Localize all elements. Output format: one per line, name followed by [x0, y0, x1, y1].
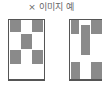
- figure-title: × 이미지 예: [0, 0, 102, 14]
- cell-top-right: [91, 20, 102, 34]
- cell-lower-left: [10, 50, 21, 64]
- cell-bottom-left: [71, 62, 80, 79]
- left-pattern-box: [8, 19, 45, 81]
- cell-bottom-right: [91, 62, 102, 79]
- cell-middle-center: [21, 34, 32, 49]
- right-pattern-box: [69, 19, 102, 81]
- cell-top-left: [10, 20, 21, 32]
- cell-top-left: [71, 20, 79, 34]
- cell-top-right: [32, 20, 43, 32]
- cell-lower-right: [32, 50, 43, 64]
- cell-center-tall: [81, 25, 90, 55]
